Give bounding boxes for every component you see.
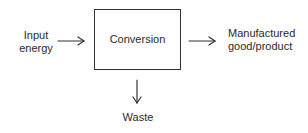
flow-arrows bbox=[0, 0, 308, 133]
arrow-right-icon bbox=[189, 37, 215, 45]
arrow-right-icon bbox=[58, 37, 84, 45]
arrow-down-icon bbox=[133, 80, 141, 103]
